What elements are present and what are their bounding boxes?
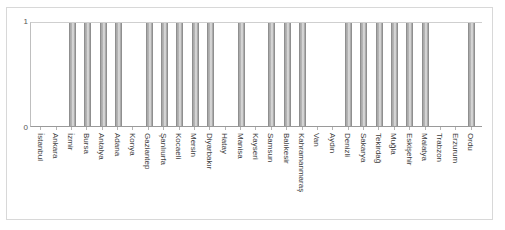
- bar-slot: [80, 23, 95, 126]
- bar: [299, 23, 306, 126]
- y-axis: 1 0: [4, 22, 28, 128]
- bar: [360, 23, 367, 126]
- x-axis-label-slot: Aydın: [325, 131, 340, 221]
- x-axis-tick-label: Antalya: [97, 133, 105, 160]
- bar-slot: [280, 23, 295, 126]
- bar: [376, 23, 383, 126]
- bar-slot: [341, 23, 356, 126]
- tick-mark: [56, 127, 57, 130]
- x-axis-label-slot: Tekirdağ: [371, 131, 386, 221]
- x-axis-label-slot: Mersin: [187, 131, 202, 221]
- bar: [268, 23, 275, 126]
- x-axis-tick-label: Balıkesir: [282, 133, 290, 164]
- tick-mark: [302, 127, 303, 130]
- x-axis-label-slot: Kahramanmaraş: [294, 131, 309, 221]
- tick-mark: [471, 127, 472, 130]
- x-axis-label-slot: Sakarya: [356, 131, 371, 221]
- x-axis-tick-label: Bursa: [82, 133, 90, 154]
- x-axis-label-slot: Samsun: [264, 131, 279, 221]
- x-axis-tick-label: Aydın: [328, 133, 336, 153]
- x-axis-label-slot: Gaziantep: [141, 131, 156, 221]
- bar-slot: [218, 23, 233, 126]
- bar-chart-figure: 1 0 İstanbulAnkaraİzmirBursaAntalyaAdana…: [0, 0, 505, 230]
- x-axis-tick-label: Şanlıurfa: [159, 133, 167, 165]
- tick-mark: [255, 127, 256, 130]
- bar: [391, 23, 398, 126]
- bar: [422, 23, 429, 126]
- x-axis-tick-label: Sakarya: [359, 133, 367, 162]
- tick-mark: [148, 127, 149, 130]
- tick-mark: [40, 127, 41, 130]
- x-axis-tick-label: Diyarbakır: [205, 133, 213, 169]
- bar-slot: [141, 23, 156, 126]
- tick-mark: [102, 127, 103, 130]
- x-axis-label-slot: Manisa: [233, 131, 248, 221]
- bar-slot: [356, 23, 371, 126]
- x-axis-tick-label: İstanbul: [36, 133, 44, 161]
- tick-mark: [194, 127, 195, 130]
- bar: [207, 23, 214, 126]
- x-axis-label-slot: Antalya: [95, 131, 110, 221]
- bar-slot: [310, 23, 325, 126]
- bar: [100, 23, 107, 126]
- x-axis-tick-label: Mersin: [189, 133, 197, 157]
- x-axis-tick-label: Manisa: [236, 133, 244, 159]
- x-axis-label-slot: Muğla: [387, 131, 402, 221]
- x-axis-tick-label: Ordu: [466, 133, 474, 151]
- x-axis-tick-label: Gaziantep: [143, 133, 151, 169]
- x-axis-tick-label: Kayseri: [251, 133, 259, 160]
- bar: [238, 23, 245, 126]
- x-axis-tick-label: Eskişehir: [405, 133, 413, 165]
- x-axis-tick-label: Adana: [113, 133, 121, 156]
- bar-slot: [402, 23, 417, 126]
- bar-slot: [34, 23, 49, 126]
- tick-mark: [179, 127, 180, 130]
- x-axis-tick-label: İzmir: [66, 133, 74, 150]
- bar-slot: [157, 23, 172, 126]
- x-axis-tick-label: Trabzon: [435, 133, 443, 162]
- x-axis-label-slot: Erzurum: [448, 131, 463, 221]
- x-axis-tick-label: Denizli: [343, 133, 351, 157]
- bar-slot: [233, 23, 248, 126]
- bar-slot: [264, 23, 279, 126]
- bar-slot: [372, 23, 387, 126]
- tick-mark: [163, 127, 164, 130]
- tick-mark: [209, 127, 210, 130]
- x-axis-tick-label: Ankara: [51, 133, 59, 158]
- tick-mark: [332, 127, 333, 130]
- x-axis-label-slot: Bursa: [79, 131, 94, 221]
- bar: [468, 23, 475, 126]
- bar: [69, 23, 76, 126]
- x-axis-tick-label: Muğla: [389, 133, 397, 155]
- bar-slot: [249, 23, 264, 126]
- tick-mark: [394, 127, 395, 130]
- x-axis-tick-label: Kahramanmaraş: [297, 133, 305, 192]
- bar-slot: [448, 23, 463, 126]
- y-axis-tick-label-top: 1: [6, 18, 28, 26]
- x-axis-label-slot: Trabzon: [433, 131, 448, 221]
- x-axis-label-slot: Şanlıurfa: [156, 131, 171, 221]
- tick-mark: [132, 127, 133, 130]
- bar-slot: [95, 23, 110, 126]
- x-axis-label-slot: Denizli: [341, 131, 356, 221]
- tick-mark: [409, 127, 410, 130]
- x-axis-tick-label: Van: [312, 133, 320, 147]
- tick-mark: [271, 127, 272, 130]
- tick-mark: [440, 127, 441, 130]
- bar-slot: [187, 23, 202, 126]
- tick-mark: [425, 127, 426, 130]
- bar: [146, 23, 153, 126]
- x-axis-label-slot: İstanbul: [33, 131, 48, 221]
- bar-slot: [111, 23, 126, 126]
- bar-slot: [49, 23, 64, 126]
- tick-mark: [240, 127, 241, 130]
- bar: [345, 23, 352, 126]
- x-axis-label-slot: Adana: [110, 131, 125, 221]
- bar: [284, 23, 291, 126]
- x-axis-label-slot: Balıkesir: [279, 131, 294, 221]
- tick-mark: [348, 127, 349, 130]
- x-axis-label-slot: İzmir: [64, 131, 79, 221]
- x-axis-tick-label: Erzurum: [451, 133, 459, 163]
- tick-mark: [455, 127, 456, 130]
- x-axis-label-slot: Hatay: [218, 131, 233, 221]
